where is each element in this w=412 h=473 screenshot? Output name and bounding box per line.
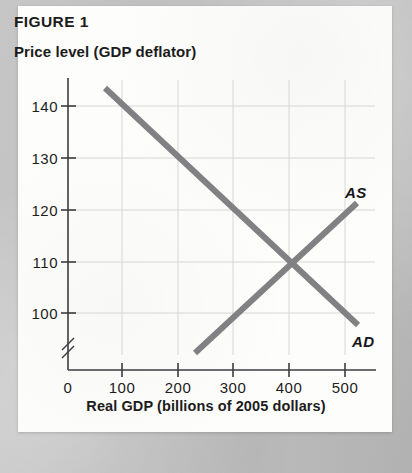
ad-curve-label: AD — [352, 333, 374, 350]
gridlines-horizontal — [68, 106, 375, 313]
y-tick-label-140: 140 — [16, 98, 58, 115]
y-tick-label-110: 110 — [16, 254, 58, 271]
y-tick-label-120: 120 — [16, 202, 58, 219]
ad-curve — [105, 88, 358, 325]
x-tick-label-0: 0 — [44, 379, 92, 396]
x-tick-label-100: 100 — [98, 379, 146, 396]
y-tick-label-100: 100 — [16, 305, 58, 322]
chart-plot-area — [0, 0, 412, 473]
x-tick-label-200: 200 — [154, 379, 202, 396]
x-tick-label-400: 400 — [265, 379, 313, 396]
as-curve-label: AS — [345, 184, 366, 201]
x-tick-label-300: 300 — [209, 379, 257, 396]
as-curve — [195, 203, 357, 353]
y-tick-label-130: 130 — [16, 150, 58, 167]
x-tick-label-500: 500 — [321, 379, 369, 396]
